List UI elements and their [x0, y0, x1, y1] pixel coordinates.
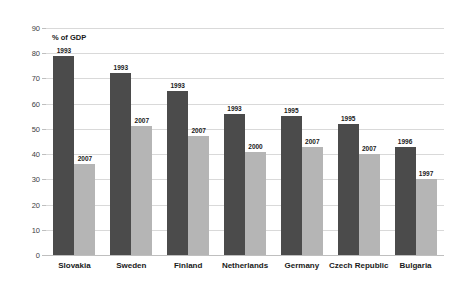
bar [416, 179, 437, 255]
bar-group: 19961997 [46, 28, 444, 255]
gridline [46, 255, 444, 256]
bar [395, 147, 416, 255]
y-axis-tick-label: 0 [8, 251, 40, 260]
bar-chart-figure: 0102030405060708090 % of GDP 19932007199… [0, 0, 456, 291]
y-axis-tick-label: 60 [8, 99, 40, 108]
y-axis-tick-label: 90 [8, 24, 40, 33]
bar-value-label: 1996 [398, 138, 412, 145]
x-axis-category-label: Finland [174, 261, 202, 270]
y-axis-tick-label: 50 [8, 124, 40, 133]
y-axis-tick-label: 10 [8, 225, 40, 234]
y-axis-tick-label: 20 [8, 200, 40, 209]
bar-value-label: 1997 [419, 170, 433, 177]
y-axis-tick-label: 30 [8, 175, 40, 184]
x-axis-category-label: Slovakia [58, 261, 90, 270]
y-axis-tick-label: 70 [8, 74, 40, 83]
plot-area: 1993200719932007199320071993200019952007… [46, 28, 444, 255]
y-axis-tick-label: 80 [8, 49, 40, 58]
x-axis-category-label: Germany [285, 261, 320, 270]
x-axis-category-label: Sweden [116, 261, 146, 270]
x-axis-category-label: Bulgaria [400, 261, 432, 270]
x-axis-category-label: Czech Republic [329, 261, 389, 270]
x-axis-category-label: Netherlands [222, 261, 268, 270]
y-axis-tick-label: 40 [8, 150, 40, 159]
